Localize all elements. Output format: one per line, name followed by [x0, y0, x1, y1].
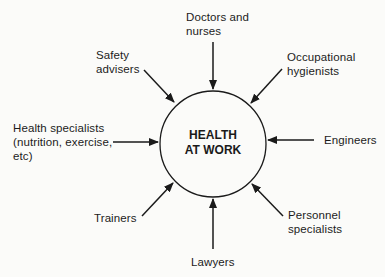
arrow-personnel [252, 184, 283, 216]
label-occupational: Occupational hygienists [287, 50, 355, 78]
arrow-occupational [251, 69, 282, 103]
arrow-safety [144, 70, 174, 102]
label-trainers: Trainers [94, 211, 137, 225]
label-safety: Safety advisers [96, 48, 140, 76]
arrow-trainers [142, 183, 173, 216]
health-at-work-diagram: HEALTH AT WORK Doctors and nurses Occupa… [0, 0, 385, 277]
center-label: HEALTH AT WORK [163, 128, 263, 158]
label-lawyers: Lawyers [191, 255, 235, 269]
label-health: Health specialists (nutrition, exercise,… [13, 121, 112, 163]
label-doctors: Doctors and nurses [186, 10, 249, 38]
label-engineers: Engineers [324, 133, 377, 147]
label-personnel: Personnel specialists [288, 208, 342, 236]
